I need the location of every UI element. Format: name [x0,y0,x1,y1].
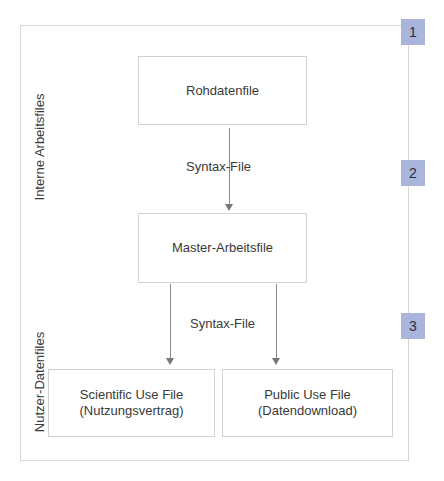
node-scientific-use-file: Scientific Use File (Nutzungsvertrag) [48,369,215,437]
arrowhead-icon [272,358,280,365]
node-label: Master-Arbeitsfile [172,240,273,256]
arrow-master-to-public [276,284,277,359]
node-sublabel: (Datendownload) [258,403,357,419]
node-sublabel: (Nutzungsvertrag) [79,403,183,419]
badge-number: 1 [409,24,417,40]
badge-number: 3 [409,318,417,334]
node-label: Public Use File [264,387,351,403]
step-badge-3: 3 [401,313,425,339]
node-raw-data-file: Rohdatenfile [138,56,307,125]
node-public-use-file: Public Use File (Datendownload) [222,369,393,437]
section-label-user: Nutzer-Datenfiles [32,332,47,432]
badge-number: 2 [409,165,417,181]
arrowhead-icon [225,204,233,211]
step-badge-2: 2 [401,160,425,186]
section-label-internal: Interne Arbeitsfiles [32,94,47,201]
node-master-work-file: Master-Arbeitsfile [138,213,307,283]
edge-label-syntax-file-1: Syntax-File [186,159,251,174]
step-badge-1: 1 [401,19,425,45]
arrowhead-icon [166,358,174,365]
node-label: Rohdatenfile [186,83,259,99]
edge-label-syntax-file-2: Syntax-File [190,316,255,331]
node-label: Scientific Use File [80,387,183,403]
arrow-master-to-scientific [170,284,171,359]
